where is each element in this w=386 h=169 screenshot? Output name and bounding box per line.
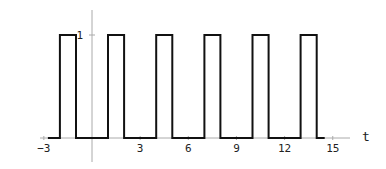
x-axis-label: t [362, 129, 370, 144]
square-wave-plot: −33691215 1 t [0, 0, 386, 169]
y-tick-label-1: 1 [76, 29, 83, 42]
x-tick-label: 12 [278, 142, 291, 155]
x-tick-label: 6 [185, 142, 192, 155]
x-tick-label: 3 [137, 142, 144, 155]
x-tick-label: 9 [233, 142, 240, 155]
x-tick-label: 15 [326, 142, 339, 155]
x-tick-labels: −33691215 [37, 142, 339, 155]
square-wave-curve [48, 35, 325, 138]
x-tick-label: −3 [37, 142, 50, 155]
chart-root: −33691215 1 t [0, 0, 386, 169]
